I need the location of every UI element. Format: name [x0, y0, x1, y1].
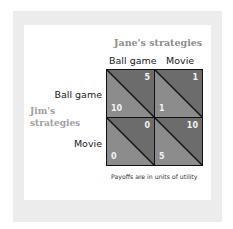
row-player-title: Jim's strategies	[30, 105, 80, 129]
jim-payoff: 1	[159, 104, 165, 113]
column-label-ball-game: Ball game	[109, 55, 157, 66]
row-player-title-line1: Jim's	[30, 105, 80, 117]
row-player-title-line2: strategies	[30, 117, 80, 129]
jim-payoff: 5	[159, 152, 165, 161]
payoff-cell-ballgame-movie: 1 1	[155, 70, 202, 117]
column-label-movie: Movie	[166, 55, 194, 66]
row-label-ball-game: Ball game	[22, 89, 102, 100]
payoff-matrix-figure: Jane's strategies Ball game Movie Ball g…	[0, 0, 233, 229]
jane-payoff: 1	[192, 73, 198, 82]
jane-payoff: 5	[144, 73, 150, 82]
row-label-movie: Movie	[22, 138, 102, 149]
payoff-cell-ballgame-ballgame: 5 10	[107, 70, 154, 117]
jim-payoff: 10	[111, 104, 122, 113]
payoff-grid: 5 10 1 1 0 0	[106, 69, 203, 166]
jim-payoff: 0	[111, 152, 117, 161]
column-player-title: Jane's strategies	[114, 37, 202, 48]
payoff-cell-movie-movie: 10 5	[155, 118, 202, 165]
payoff-units-note: Payoffs are in units of utility	[111, 173, 197, 180]
jane-payoff: 0	[144, 121, 150, 130]
jane-payoff: 10	[187, 121, 198, 130]
payoff-cell-movie-ballgame: 0 0	[107, 118, 154, 165]
